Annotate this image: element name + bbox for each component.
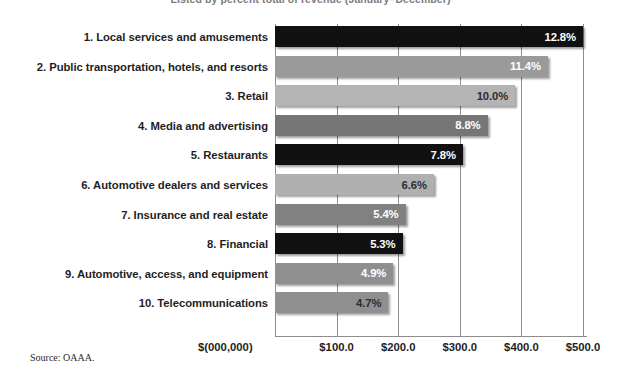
x-axis-baseline <box>275 336 587 337</box>
bar-wrapper: 5.3% <box>275 233 403 254</box>
bar-wrapper: 6.6% <box>275 174 434 195</box>
bar-value-label: 10.0% <box>477 90 516 102</box>
category-label: 9. Automotive, access, and equipment <box>65 268 268 280</box>
category-label: 10. Telecommunications <box>139 297 268 309</box>
category-label: 6. Automotive dealers and services <box>81 179 268 191</box>
bar-wrapper: 10.0% <box>275 85 515 106</box>
bar-row: 4. Media and advertising8.8% <box>0 115 621 137</box>
bar-wrapper: 5.4% <box>275 204 406 225</box>
chart-title: Listed by percent total of revenue (Janu… <box>0 0 621 5</box>
bar-value-label: 5.4% <box>373 208 405 220</box>
x-tick-label-200: $200.0 <box>381 341 416 353</box>
bar: 4.7% <box>275 292 388 313</box>
category-label: 4. Media and advertising <box>138 120 268 132</box>
x-tick-label-100: $100.0 <box>319 341 354 353</box>
category-label: 1. Local services and amusements <box>84 31 268 43</box>
x-axis-unit-label: $(000,000) <box>198 341 253 353</box>
bar-wrapper: 8.8% <box>275 115 488 136</box>
bar-wrapper: 12.8% <box>275 26 583 47</box>
x-tick-label-300: $300.0 <box>443 341 478 353</box>
bar-row: 9. Automotive, access, and equipment4.9% <box>0 263 621 285</box>
bar-wrapper: 7.8% <box>275 144 463 165</box>
category-label: 2. Public transportation, hotels, and re… <box>37 61 268 73</box>
bar-row: 3. Retail10.0% <box>0 85 621 107</box>
category-label: 8. Financial <box>207 238 268 250</box>
bar-value-label: 4.7% <box>356 297 388 309</box>
bar-value-label: 11.4% <box>510 60 548 72</box>
bar-value-label: 5.3% <box>370 238 402 250</box>
bar: 8.8% <box>275 115 488 136</box>
bar-wrapper: 4.7% <box>275 292 388 313</box>
bar-row: 6. Automotive dealers and services6.6% <box>0 174 621 196</box>
bar-value-label: 12.8% <box>544 31 583 43</box>
category-label: 5. Restaurants <box>191 149 268 161</box>
bar-value-label: 4.9% <box>361 267 393 279</box>
x-tick-label-500: $500.0 <box>566 341 601 353</box>
bar-row: 1. Local services and amusements12.8% <box>0 26 621 48</box>
bar-chart-figure: Listed by percent total of revenue (Janu… <box>0 0 621 377</box>
bar-wrapper: 11.4% <box>275 56 548 77</box>
x-tick-label-400: $400.0 <box>504 341 539 353</box>
bar-row: 7. Insurance and real estate5.4% <box>0 204 621 226</box>
source-note: Source: OAAA. <box>30 352 94 363</box>
bar: 11.4% <box>275 56 548 77</box>
bar-row: 8. Financial5.3% <box>0 233 621 255</box>
bar-wrapper: 4.9% <box>275 263 393 284</box>
bar-value-label: 6.6% <box>402 179 434 191</box>
bar-value-label: 7.8% <box>431 149 463 161</box>
bar: 7.8% <box>275 144 463 165</box>
bar-value-label: 8.8% <box>455 119 487 131</box>
bar: 12.8% <box>275 26 583 47</box>
bar: 5.3% <box>275 233 403 254</box>
bar: 4.9% <box>275 263 393 284</box>
bar-row: 2. Public transportation, hotels, and re… <box>0 56 621 78</box>
bar-row: 5. Restaurants7.8% <box>0 144 621 166</box>
category-label: 3. Retail <box>225 90 268 102</box>
bar: 10.0% <box>275 85 515 106</box>
bar: 6.6% <box>275 174 434 195</box>
bar: 5.4% <box>275 204 406 225</box>
bar-row: 10. Telecommunications4.7% <box>0 292 621 314</box>
category-label: 7. Insurance and real estate <box>121 209 268 221</box>
